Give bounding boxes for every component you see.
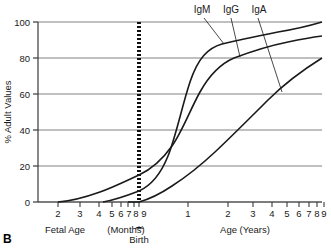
immunoglobulin-chart: 100 80 60 40 20 0 % Adult Values bbox=[0, 0, 331, 252]
x-tick-label-year-4: 4 bbox=[269, 208, 274, 219]
x-axis: 2 3 4 5 6 7 8 9 1 2 3 4 5 6 7 8 9 Fetal … bbox=[38, 202, 327, 235]
x-tick-label-fetal-9: 9 bbox=[141, 208, 146, 219]
series-label-iga: IgA bbox=[251, 4, 266, 15]
x-tick-label-fetal-7: 7 bbox=[126, 208, 131, 219]
y-axis-title: % Adult Values bbox=[2, 80, 13, 143]
leader-line-igg bbox=[231, 18, 240, 57]
x-tick-label-year-7: 7 bbox=[306, 208, 311, 219]
y-tick-label-60: 60 bbox=[19, 89, 30, 100]
x-tick-label-year-1: 1 bbox=[185, 208, 190, 219]
series-label-igm: IgM bbox=[194, 4, 211, 15]
series-labels: IgM IgG IgA bbox=[194, 4, 267, 15]
x-tick-label-year-5: 5 bbox=[284, 208, 289, 219]
x-tick-label-fetal-3: 3 bbox=[77, 208, 82, 219]
y-axis: 100 80 60 40 20 0 % Adult Values bbox=[2, 17, 38, 208]
figure-panel: 100 80 60 40 20 0 % Adult Values bbox=[0, 0, 331, 252]
series-curve-igm bbox=[103, 22, 322, 202]
series-curves bbox=[58, 22, 322, 202]
y-axis-ticks bbox=[33, 22, 38, 202]
y-tick-label-40: 40 bbox=[19, 125, 30, 136]
birth-label: Birth bbox=[129, 234, 149, 245]
x-tick-label-year-2: 2 bbox=[225, 208, 230, 219]
x-tick-label-fetal-6: 6 bbox=[118, 208, 123, 219]
x-axis-ticks bbox=[58, 202, 324, 207]
x-tick-label-fetal-8: 8 bbox=[133, 208, 138, 219]
leader-line-iga bbox=[258, 18, 282, 92]
x-axis-caption-years: Age (Years) bbox=[220, 224, 270, 235]
gridlines bbox=[38, 22, 322, 202]
y-tick-label-20: 20 bbox=[19, 161, 30, 172]
x-tick-label-fetal-5: 5 bbox=[109, 208, 114, 219]
x-tick-label-year-8: 8 bbox=[314, 208, 319, 219]
series-curve-igg bbox=[58, 36, 322, 202]
y-tick-label-80: 80 bbox=[19, 53, 30, 64]
panel-label: B bbox=[3, 233, 12, 245]
x-axis-caption-fetal: Fetal Age bbox=[45, 224, 85, 235]
x-tick-label-year-6: 6 bbox=[296, 208, 301, 219]
x-tick-label-fetal-4: 4 bbox=[96, 208, 101, 219]
x-tick-label-year-9: 9 bbox=[321, 208, 326, 219]
y-tick-label-100: 100 bbox=[14, 17, 30, 28]
x-tick-label-year-3: 3 bbox=[250, 208, 255, 219]
x-tick-label-fetal-2: 2 bbox=[55, 208, 60, 219]
series-label-igg: IgG bbox=[223, 4, 239, 15]
y-tick-label-0: 0 bbox=[25, 197, 30, 208]
